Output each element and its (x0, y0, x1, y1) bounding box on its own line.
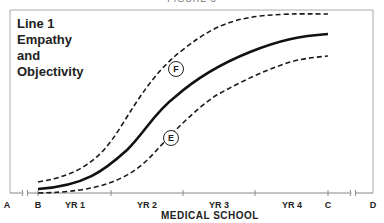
marker-e: E (163, 130, 179, 146)
x-label-yr1: YR 1 (65, 200, 85, 210)
x-label-c: C (325, 200, 332, 210)
heading-line-4: Objectivity (17, 64, 83, 80)
x-label-a: A (4, 200, 11, 210)
x-label-d: D (370, 200, 377, 210)
heading-line-3: and (17, 48, 83, 64)
x-label-b: B (35, 200, 42, 210)
marker-f: F (168, 61, 184, 77)
heading-line-1: Line 1 (17, 16, 83, 32)
x-axis-title: MEDICAL SCHOOL (161, 210, 259, 221)
heading-line-2: Empathy (17, 32, 83, 48)
x-label-yr3: YR 3 (209, 200, 229, 210)
x-label-yr2: YR 2 (137, 200, 157, 210)
chart-heading: Line 1 Empathy and Objectivity (17, 16, 83, 80)
x-label-yr4: YR 4 (282, 200, 302, 210)
